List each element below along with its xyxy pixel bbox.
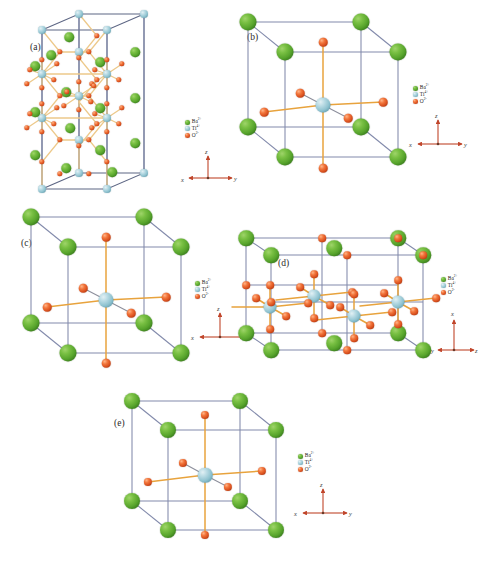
axis-label-x: x (190, 334, 194, 341)
atom-ti (140, 10, 148, 18)
atom-ba (238, 325, 254, 341)
atom-ba (173, 345, 190, 362)
legend-swatch-o (441, 290, 446, 295)
legend-row-o: O2- (298, 467, 315, 473)
panel-d: (d) (238, 190, 475, 375)
legend-row-o: O2- (195, 294, 212, 300)
atom-ti (38, 26, 46, 34)
legend-swatch-ba (195, 281, 200, 286)
atom-o (296, 283, 304, 291)
axis-triad-panel-d: x z y (434, 298, 482, 360)
legend-label-o: O2- (448, 290, 455, 295)
atom-ba (390, 149, 407, 166)
legend-row-o: O2- (413, 99, 430, 105)
atom-ba (30, 150, 40, 160)
panel-c: (c) (20, 190, 260, 375)
legend-label-o: O2- (305, 467, 312, 472)
axis-label-y: y (430, 347, 434, 354)
legend-swatch-ti (195, 287, 200, 292)
axis-triad-panel-a: z y x (180, 148, 240, 190)
atom-o (394, 320, 402, 328)
atom-ba (60, 239, 77, 256)
atom-o (350, 290, 358, 298)
atom-ba (173, 239, 190, 256)
axis-label-z: z (216, 305, 220, 312)
axis-label-z: z (474, 347, 478, 354)
legend-row-o: O2- (441, 290, 458, 296)
legend-swatch-o (185, 133, 190, 138)
atom-ti (38, 70, 46, 78)
atom-ba (240, 14, 257, 31)
axis-label-y: y (463, 141, 467, 148)
atom-o (380, 289, 388, 297)
axis-label-y: y (348, 510, 352, 517)
legend-panel-a: Ba2+ Ti4+ O2- (185, 119, 202, 139)
axis-label-z: z (319, 481, 323, 488)
atom-o (102, 233, 111, 242)
atom-o (43, 303, 52, 312)
atom-o (266, 325, 274, 333)
legend-swatch-ba (298, 454, 303, 459)
atom-ti (75, 10, 83, 18)
atom-o (366, 321, 374, 329)
atom-ba (160, 422, 176, 438)
legend-swatch-ba (413, 86, 418, 91)
legend-panel-e: Ba2+ Ti4+ O2- (298, 453, 315, 473)
atom-ba (268, 422, 284, 438)
panel-b: (b) (238, 0, 475, 182)
legend-panel-d: Ba2+ Ti4+ O2- (441, 276, 458, 296)
legend-panel-c: Ba2+ Ti4+ O2- (195, 280, 212, 300)
atom-o (319, 164, 328, 173)
axis-label-x: x (293, 510, 297, 517)
atom-ba (130, 47, 140, 57)
atom-ba (95, 145, 105, 155)
legend-swatch-ti (413, 92, 418, 97)
atom-ti (392, 296, 405, 309)
atom-o (336, 303, 344, 311)
atom-ba (268, 522, 284, 538)
axis-triad-panel-e: z y x (293, 479, 355, 527)
atom-o (379, 98, 388, 107)
atom-o (310, 270, 318, 278)
atom-o (326, 301, 334, 309)
atom-o (162, 293, 171, 302)
atom-o (282, 312, 290, 320)
axis-label-z: z (434, 112, 438, 119)
axis-label-x: x (180, 176, 184, 183)
atom-o (350, 334, 358, 342)
atom-ti (99, 293, 114, 308)
atom-o (266, 281, 274, 289)
atom-ba (136, 209, 153, 226)
legend-row-o: O2- (185, 133, 202, 139)
legend-swatch-o (195, 294, 200, 299)
atom-o (394, 234, 402, 242)
atom-ba (232, 393, 248, 409)
atom-o (319, 38, 328, 47)
atom-ba (353, 14, 370, 31)
axis-label-x: x (450, 310, 454, 317)
legend-swatch-ti (441, 283, 446, 288)
atom-ti (103, 26, 111, 34)
legend-swatch-ti (185, 126, 190, 131)
atom-ti (75, 92, 83, 100)
atom-ba (124, 493, 140, 509)
atom-ba (46, 50, 56, 60)
atom-ba (240, 119, 257, 136)
atom-ba (130, 138, 140, 148)
atom-ti (140, 169, 148, 177)
legend-panel-b: Ba2+ Ti4+ O2- (413, 85, 430, 105)
atom-ba (160, 522, 176, 538)
atom-o (304, 299, 312, 307)
atom-o (419, 251, 427, 259)
atom-ba (65, 123, 75, 133)
atom-ba (326, 240, 342, 256)
atom-ba (238, 230, 254, 246)
atom-ba (232, 493, 248, 509)
atom-o (310, 314, 318, 322)
legend-label-o: O2- (202, 294, 209, 299)
axis-label-y: y (233, 175, 237, 182)
atom-o (318, 329, 326, 337)
atom-ba (263, 247, 279, 263)
atom-ba (60, 345, 77, 362)
